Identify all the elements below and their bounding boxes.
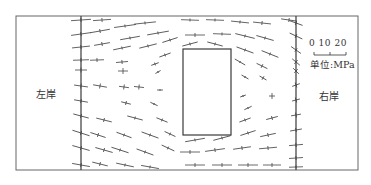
stress-cross (121, 100, 132, 106)
left-bank-label: 左岸 (36, 86, 56, 101)
principal-stress-crosses (71, 17, 303, 170)
stress-cross (120, 35, 140, 41)
stress-cross (234, 58, 245, 66)
stress-cross (233, 145, 251, 151)
stress-cross (241, 74, 249, 80)
stress-cross (71, 17, 91, 22)
stress-cross (185, 137, 205, 143)
stress-cross (205, 147, 225, 154)
stress-cross (261, 49, 279, 59)
bank-boundary-lines (81, 16, 296, 170)
stress-cross (263, 163, 281, 167)
stress-cross (156, 116, 168, 123)
stress-cross (127, 114, 143, 121)
stress-distribution-figure: 左岸 右岸 0 10 20 单位:MPa (0, 0, 371, 185)
stress-cross (92, 160, 108, 168)
stress-cross (266, 115, 279, 122)
stress-cross (159, 52, 171, 59)
stress-cross (253, 20, 271, 26)
stress-cross (118, 68, 128, 74)
stress-cross (155, 70, 161, 75)
stress-cross (93, 17, 111, 22)
stress-cross (180, 150, 200, 154)
stress-cross (141, 164, 159, 170)
stress-cross (119, 84, 130, 90)
stress-cross (93, 82, 108, 89)
stress-cross (212, 163, 232, 167)
stress-cross (260, 131, 276, 138)
stress-cross (182, 40, 198, 47)
stress-cross (151, 61, 160, 67)
stress-cross (161, 144, 175, 153)
stress-cross (75, 68, 87, 73)
stress-cross (164, 130, 176, 138)
stress-cross (90, 27, 110, 34)
scale-tick-labels: 0 10 20 (309, 38, 347, 48)
scale-bar (314, 52, 346, 55)
stress-cross (181, 18, 199, 22)
stress-cross (244, 105, 252, 110)
stress-cross (134, 20, 156, 25)
stress-cross (289, 156, 303, 161)
stress-cross (256, 62, 269, 71)
stress-cross (116, 162, 134, 169)
stress-cross (116, 131, 132, 139)
stress-cross (141, 131, 159, 140)
stress-cross (111, 146, 129, 154)
stress-cross (289, 142, 303, 147)
underground-opening (183, 49, 231, 135)
stress-cross (94, 41, 110, 48)
stress-cross (136, 148, 154, 157)
stress-cross (289, 165, 303, 168)
stress-cross (259, 145, 277, 151)
stress-cross (185, 33, 205, 37)
scale-unit-label: 单位:MPa (310, 57, 355, 71)
stress-cross (150, 101, 158, 106)
stress-cross (206, 18, 224, 22)
stress-cross (259, 74, 268, 81)
stress-cross (139, 42, 157, 49)
stress-cross (96, 116, 112, 124)
stress-cross (239, 117, 251, 124)
stress-cross (90, 58, 104, 62)
stress-cross (231, 20, 249, 25)
stress-cross (213, 32, 231, 36)
stress-cross (240, 129, 256, 137)
stress-cross (207, 40, 223, 47)
stress-cross (240, 94, 246, 98)
stress-cross (73, 58, 89, 63)
stress-cross (114, 23, 136, 29)
stress-cross (236, 46, 254, 55)
stress-cross (116, 59, 128, 64)
stress-cross (95, 146, 113, 155)
stress-cross (235, 32, 255, 40)
stress-cross (256, 34, 274, 42)
stress-cross (90, 131, 106, 140)
stress-cross (134, 84, 144, 90)
outer-frame (16, 16, 358, 170)
stress-cross (157, 89, 163, 91)
stress-cross (238, 163, 258, 167)
right-bank-label: 右岸 (319, 88, 339, 103)
stress-cross (74, 83, 89, 90)
stress-cross (162, 36, 178, 44)
stress-cross (147, 30, 169, 37)
stress-cross (113, 45, 131, 52)
stress-cross (185, 163, 205, 167)
stress-cross (269, 93, 275, 99)
